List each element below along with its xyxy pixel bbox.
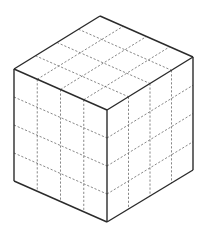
cube-faces [14,16,193,222]
cube-diagram: Cube divided into 4x4x4 unit cubes [0,0,202,232]
cube-figure [0,0,202,232]
